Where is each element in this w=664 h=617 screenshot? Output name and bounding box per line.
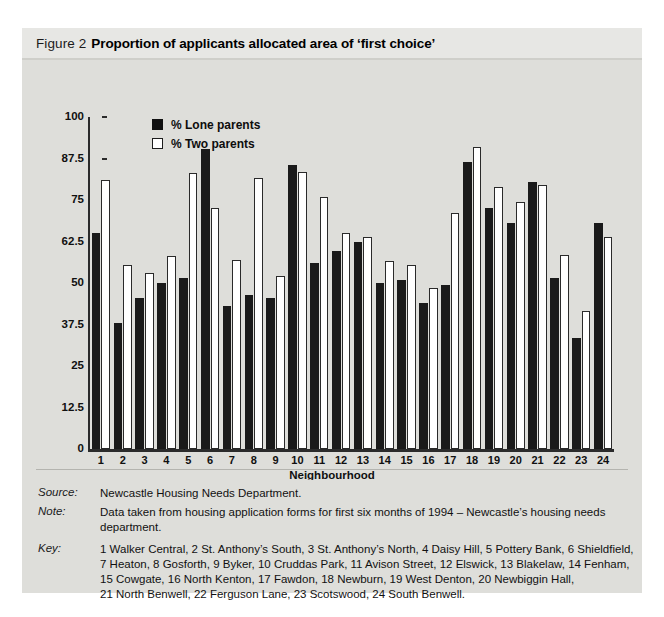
bar-group <box>507 117 525 449</box>
note-source-text: Newcastle Housing Needs Department. <box>100 486 301 501</box>
bar-lone-parents <box>485 208 494 449</box>
legend-label-lone-parents: % Lone parents <box>171 118 260 132</box>
bar-two-parents <box>167 256 176 449</box>
x-axis-line <box>88 449 614 452</box>
bar-lone-parents <box>266 298 275 449</box>
x-tick-label: 19 <box>483 454 505 466</box>
bar-lone-parents <box>245 295 254 449</box>
bar-lone-parents <box>419 303 428 449</box>
bar-group <box>594 117 612 449</box>
bar-group <box>485 117 503 449</box>
bar-group <box>397 117 415 449</box>
x-tick-label: 15 <box>396 454 418 466</box>
legend-item-two-parents: % Two parents <box>152 135 260 152</box>
x-tick-label: 6 <box>199 454 221 466</box>
y-axis-ticks: 012.52537.55062.57587.5100 <box>40 117 84 450</box>
chart-notes-divider <box>36 469 628 470</box>
bar-lone-parents <box>594 223 603 449</box>
note-source: Source: Newcastle Housing Needs Departme… <box>38 486 626 501</box>
bar-group <box>135 117 153 449</box>
bar-lone-parents <box>332 251 341 449</box>
x-tick-label: 13 <box>352 454 374 466</box>
bar-two-parents <box>538 185 547 449</box>
bar-group <box>266 117 284 449</box>
bar-lone-parents <box>114 323 123 449</box>
bar-lone-parents <box>135 298 144 449</box>
bar-two-parents <box>473 147 482 449</box>
bar-plot-area <box>90 117 614 449</box>
x-tick-label: 4 <box>156 454 178 466</box>
note-key-line: 1 Walker Central, 2 St. Anthony’s South,… <box>100 542 634 557</box>
bar-group <box>572 117 590 449</box>
bar-lone-parents <box>179 278 188 449</box>
bar-two-parents <box>276 276 285 449</box>
bar-two-parents <box>429 288 438 449</box>
bar-lone-parents <box>572 338 581 449</box>
bar-two-parents <box>604 237 613 449</box>
x-tick-label: 23 <box>570 454 592 466</box>
bar-lone-parents <box>288 165 297 449</box>
x-tick-label: 24 <box>592 454 614 466</box>
y-tick-label: 100 <box>44 110 84 122</box>
bar-group <box>419 117 437 449</box>
x-tick-label: 12 <box>330 454 352 466</box>
note-key-lines: 1 Walker Central, 2 St. Anthony’s South,… <box>100 542 634 603</box>
bar-group <box>376 117 394 449</box>
x-tick-label: 20 <box>505 454 527 466</box>
x-tick-label: 17 <box>439 454 461 466</box>
bar-lone-parents <box>376 283 385 449</box>
bar-lone-parents <box>223 306 232 449</box>
note-source-label: Source: <box>38 486 100 501</box>
bar-lone-parents <box>92 233 101 449</box>
bar-two-parents <box>101 180 110 449</box>
bar-group <box>114 117 132 449</box>
bar-two-parents <box>560 255 569 449</box>
x-tick-label: 9 <box>265 454 287 466</box>
y-tick-label: 12.5 <box>44 401 84 413</box>
bar-group <box>201 117 219 449</box>
bar-two-parents <box>211 208 220 449</box>
x-tick-label: 3 <box>134 454 156 466</box>
bar-two-parents <box>494 187 503 449</box>
bar-two-parents <box>123 265 132 449</box>
figure-title-band: Figure 2 Proportion of applicants alloca… <box>22 28 642 58</box>
chart-legend: % Lone parents % Two parents <box>152 116 260 154</box>
bar-two-parents <box>342 233 351 449</box>
y-tick-label: 50 <box>44 276 84 288</box>
legend-swatch-open-square-icon <box>152 138 163 149</box>
bar-two-parents <box>407 265 416 449</box>
bar-group <box>441 117 459 449</box>
x-tick-label: 5 <box>177 454 199 466</box>
note-note-label: Note: <box>38 505 100 535</box>
note-key-line: 21 North Benwell, 22 Ferguson Lane, 23 S… <box>100 587 634 602</box>
bar-group <box>179 117 197 449</box>
bar-two-parents <box>451 213 460 449</box>
y-tick-label: 37.5 <box>44 318 84 330</box>
bar-lone-parents <box>397 280 406 449</box>
bar-lone-parents <box>507 223 516 449</box>
bar-two-parents <box>189 173 198 449</box>
bar-group <box>245 117 263 449</box>
bar-lone-parents <box>550 278 559 449</box>
bar-two-parents <box>516 202 525 449</box>
x-tick-label: 21 <box>527 454 549 466</box>
bar-group <box>332 117 350 449</box>
y-tick-label: 75 <box>44 193 84 205</box>
legend-item-lone-parents: % Lone parents <box>152 116 260 133</box>
x-tick-label: 16 <box>418 454 440 466</box>
note-note-text: Data taken from housing application form… <box>100 505 626 535</box>
page-title: Proportion of applicants allocated area … <box>91 36 435 51</box>
x-tick-label: 18 <box>461 454 483 466</box>
bar-two-parents <box>298 172 307 449</box>
bar-group <box>92 117 110 449</box>
bar-lone-parents <box>310 263 319 449</box>
bar-lone-parents <box>354 242 363 450</box>
bar-two-parents <box>385 261 394 449</box>
bar-group <box>288 117 306 449</box>
bar-group <box>354 117 372 449</box>
bar-two-parents <box>254 178 263 449</box>
figure-card: Figure 2 Proportion of applicants alloca… <box>22 28 642 593</box>
x-tick-label: 7 <box>221 454 243 466</box>
bar-lone-parents <box>157 283 166 449</box>
bar-group <box>463 117 481 449</box>
